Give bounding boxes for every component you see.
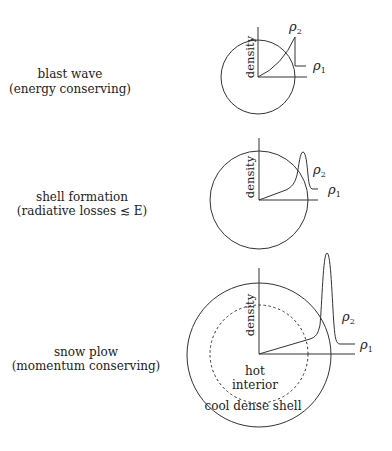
- density-axis-label: density: [243, 35, 257, 78]
- density-axis-label: density: [243, 155, 257, 198]
- density-profile-curve: [258, 37, 306, 77]
- rho1-label: ρ1: [359, 337, 373, 354]
- rho1-label: ρ1: [312, 58, 326, 75]
- interior-label: interior: [232, 378, 278, 392]
- panel-2-title: shell formation: [36, 190, 128, 204]
- panel-1-title: blast wave: [38, 67, 103, 81]
- cool-dense-shell-label: cool dense shell: [204, 399, 301, 413]
- panel-1-subtitle: (energy conserving): [9, 82, 131, 96]
- hot-label: hot: [245, 364, 265, 378]
- density-axis-label: density: [243, 293, 257, 336]
- density-profile-curve: [259, 253, 355, 354]
- rho2-label: ρ2: [341, 309, 355, 326]
- rho2-label: ρ2: [288, 19, 302, 36]
- supernova-remnant-stages-diagram: blast wave (energy conserving) density ρ…: [0, 0, 392, 451]
- panel-3-title: snow plow: [54, 345, 119, 359]
- rho1-label: ρ1: [327, 182, 341, 199]
- panel-2-subtitle: (radiative losses ≲ E): [17, 204, 147, 218]
- panel-snow-plow: snow plow (momentum conserving) density …: [12, 253, 373, 427]
- panel-shell-formation: shell formation (radiative losses ≲ E) d…: [17, 138, 341, 249]
- panel-3-subtitle: (momentum conserving): [12, 359, 161, 373]
- panel-blast-wave: blast wave (energy conserving) density ρ…: [9, 19, 326, 114]
- rho2-label: ρ2: [312, 162, 326, 179]
- density-profile-curve: [259, 152, 318, 200]
